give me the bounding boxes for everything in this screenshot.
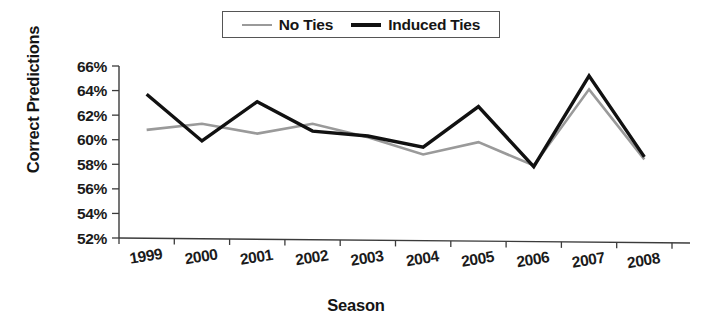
y-tick-label: 58% [77,156,108,173]
x-tick-label: 2007 [571,249,606,271]
x-tick-label: 1999 [128,245,164,267]
chart-svg: 52%54%56%58%60%62%64%66% 199920002001200… [0,0,712,329]
y-tick-label: 64% [77,82,108,99]
x-tick-label: 2004 [405,247,441,269]
data-series-group [147,76,645,167]
x-tick-label: 2002 [294,246,329,268]
chart-figure: No Ties Induced Ties Correct Predictions… [0,0,712,329]
plot-area: 52%54%56%58%60%62%64%66% 199920002001200… [0,0,712,329]
x-tick-label: 2001 [239,246,275,268]
y-tick-label: 52% [77,230,108,247]
x-axis: 1999200020012002200320042005200620072008 [119,238,690,271]
x-tick-label: 2008 [626,249,662,271]
x-tick-label: 2005 [460,248,496,270]
x-axis-spine [119,238,690,243]
x-tick-label: 2006 [515,248,551,270]
y-tick-label: 56% [77,180,108,197]
series-line-induced-ties [147,76,645,167]
x-tick-label: 2003 [349,247,385,269]
y-tick-label: 62% [77,107,108,124]
x-tick-label: 2000 [184,245,219,267]
y-axis: 52%54%56%58%60%62%64%66% [77,58,119,247]
y-tick-label: 66% [77,58,108,75]
y-tick-label: 54% [77,205,108,222]
y-tick-label: 60% [77,131,108,148]
